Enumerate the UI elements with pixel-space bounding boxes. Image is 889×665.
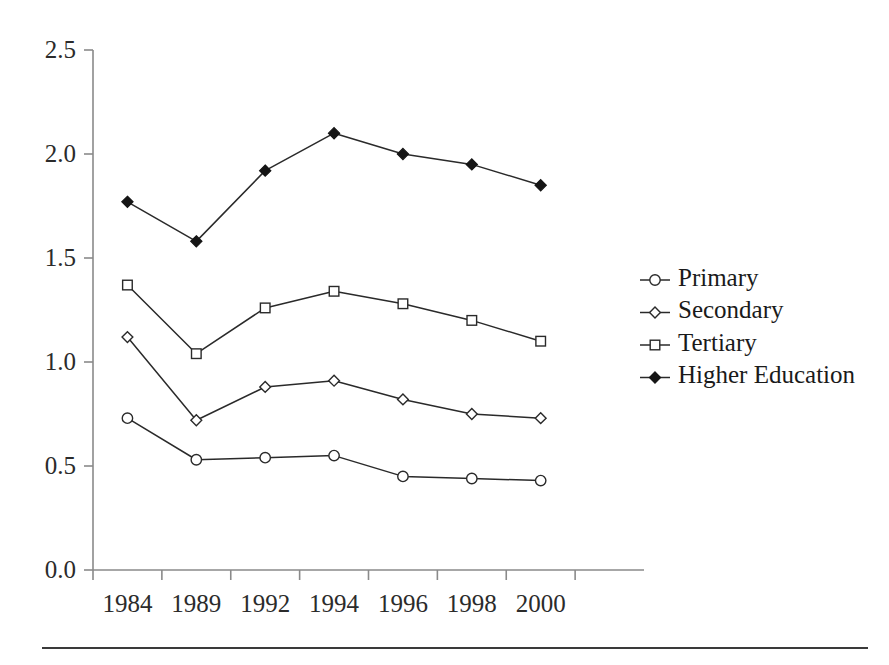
data-point-marker [535,413,546,424]
data-point-marker [649,372,660,383]
data-point-marker [535,180,546,191]
data-point-marker [398,471,408,481]
data-point-marker [467,316,477,326]
y-tick-label: 2.0 [45,140,76,167]
data-point-marker [650,275,660,285]
data-point-marker [329,450,339,460]
x-tick-label: 1992 [240,590,290,617]
bottom-divider-rule [42,647,868,649]
chart-figure: 0.00.51.01.52.02.5 198419891992199419961… [0,0,889,665]
y-tick-label: 1.5 [45,244,76,271]
series-tertiary [123,280,546,358]
x-tick-label: 1996 [378,590,428,617]
y-tick-label: 0.0 [45,556,76,583]
axis-group [93,50,644,570]
legend-item-primary[interactable]: Primary [640,264,759,291]
series-higher-education [122,128,546,247]
data-point-marker [398,299,408,309]
y-tick-label: 2.5 [45,36,76,63]
chart-legend: PrimarySecondaryTertiaryHigher Education [640,264,856,389]
data-point-marker [467,473,477,483]
legend-item-label: Primary [678,264,759,291]
data-point-marker [398,394,409,405]
data-point-marker [535,475,545,485]
y-tick-label: 0.5 [45,452,76,479]
legend-item-tertiary[interactable]: Tertiary [640,329,757,356]
series-group [122,128,546,486]
y-tick-label: 1.0 [45,348,76,375]
data-point-marker [650,340,660,350]
x-tick-label: 1984 [102,590,153,617]
y-axis-ticks: 0.00.51.01.52.02.5 [45,36,93,583]
data-point-marker [328,128,339,139]
legend-item-label: Secondary [678,296,784,323]
data-point-marker [650,307,661,318]
data-point-marker [466,159,477,170]
x-tick-label: 1994 [309,590,360,617]
x-tick-label: 1998 [447,590,497,617]
series-primary [122,413,546,486]
x-tick-label: 2000 [516,590,566,617]
data-point-marker [260,382,271,393]
data-point-marker [536,336,546,346]
series-polyline [127,418,540,480]
x-axis-ticks: 1984198919921994199619982000 [93,570,575,617]
data-point-marker [397,148,408,159]
legend-item-secondary[interactable]: Secondary [640,296,784,323]
series-polyline [127,133,540,241]
data-point-marker [123,280,133,290]
data-point-marker [122,413,132,423]
data-point-marker [192,349,202,359]
data-point-marker [466,409,477,420]
data-point-marker [329,375,340,386]
line-chart: 0.00.51.01.52.02.5 198419891992199419961… [0,0,889,665]
data-point-marker [191,455,201,465]
data-point-marker [122,196,133,207]
legend-item-higher-education[interactable]: Higher Education [640,361,856,388]
data-point-marker [260,452,270,462]
legend-item-label: Tertiary [678,329,757,356]
data-point-marker [260,303,270,313]
x-tick-label: 1989 [171,590,221,617]
legend-item-label: Higher Education [678,361,856,388]
data-point-marker [329,286,339,296]
series-secondary [122,332,546,426]
